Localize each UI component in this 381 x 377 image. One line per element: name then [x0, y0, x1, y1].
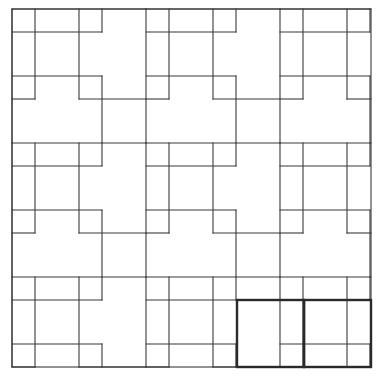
highlighted-squares [237, 300, 371, 367]
outer-border [12, 9, 371, 367]
highlighted-square [304, 300, 371, 367]
highlighted-square [237, 300, 304, 367]
tiling-diagram [0, 0, 381, 377]
tiling-lines [12, 9, 371, 367]
